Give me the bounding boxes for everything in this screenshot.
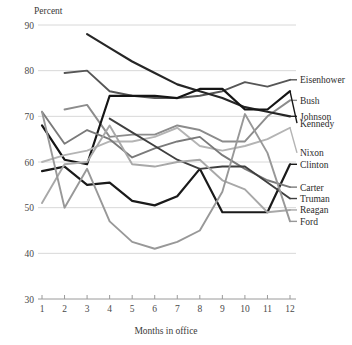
x-axis-title: Months in office (134, 326, 197, 336)
y-tick-label: 50 (25, 203, 35, 213)
x-axis (38, 295, 296, 299)
approval-rating-chart: 30405060708090 123456789101112 Eisenhowe… (0, 0, 352, 345)
y-tick-label: 90 (25, 21, 35, 31)
series-line-carter (42, 112, 290, 187)
series-line-reagan (42, 125, 290, 212)
series-label-reagan: Reagan (300, 205, 329, 215)
series-line-johnson (87, 34, 290, 116)
y-tick-label: 30 (25, 295, 35, 305)
series-labels: EisenhowerBushJohnsonKennedyNixonClinton… (300, 75, 346, 227)
y-tick-label: 80 (25, 66, 35, 76)
x-tick-label: 8 (197, 304, 202, 314)
series-label-kennedy: Kennedy (300, 119, 335, 129)
x-tick-label: 1 (40, 304, 45, 314)
x-tick-label: 10 (240, 304, 250, 314)
x-tick-label: 6 (152, 304, 157, 314)
leader-line-kennedy (290, 91, 297, 123)
series-label-nixon: Nixon (300, 148, 324, 158)
x-axis-tick-labels: 123456789101112 (40, 304, 295, 314)
x-tick-label: 11 (263, 304, 272, 314)
x-tick-label: 3 (85, 304, 90, 314)
series-label-ford: Ford (300, 217, 318, 227)
series-lines (42, 34, 290, 249)
x-tick-label: 7 (175, 304, 180, 314)
series-label-clinton: Clinton (300, 160, 329, 170)
y-tick-label: 70 (25, 112, 35, 122)
series-label-carter: Carter (300, 183, 325, 193)
x-tick-label: 5 (130, 304, 135, 314)
series-label-eisenhower: Eisenhower (300, 75, 346, 85)
y-tick-label: 40 (25, 249, 35, 259)
series-label-bush: Bush (300, 96, 320, 106)
x-tick-label: 4 (107, 304, 112, 314)
y-axis-title: Percent (34, 6, 63, 16)
series-leader-lines (290, 80, 297, 222)
leader-line-nixon (290, 128, 297, 153)
chart-canvas: 30405060708090 123456789101112 Eisenhowe… (0, 0, 352, 345)
series-label-truman: Truman (300, 194, 330, 204)
x-tick-label: 9 (220, 304, 225, 314)
x-tick-label: 2 (62, 304, 67, 314)
y-axis-tick-labels: 30405060708090 (25, 21, 35, 305)
gridlines (38, 25, 296, 253)
x-tick-label: 12 (285, 304, 295, 314)
y-tick-label: 60 (25, 158, 35, 168)
